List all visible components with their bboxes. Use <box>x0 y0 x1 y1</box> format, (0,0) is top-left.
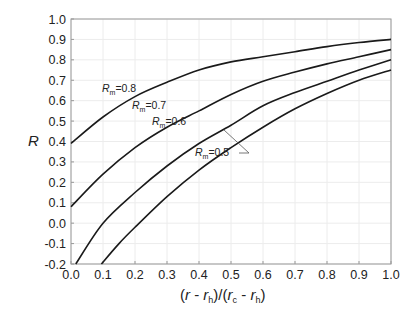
y-tick-label: 0.7 <box>49 74 66 88</box>
y-tick-label: 0.0 <box>49 217 66 231</box>
y-tick-label: 0.5 <box>49 115 66 129</box>
x-tick-label: 0.6 <box>254 268 271 282</box>
label-rm-0.5: Rm=0.5 <box>195 146 229 160</box>
x-tick-label: 0.5 <box>222 268 239 282</box>
label-rm-0.8: Rm=0.8 <box>102 82 136 96</box>
y-tick-label: 0.4 <box>49 135 66 149</box>
label-rm-0.6: Rm=0.6 <box>152 115 186 129</box>
y-axis-ticks: -0.2-0.10.00.10.20.30.40.50.60.70.80.91.… <box>44 13 74 272</box>
line-chart: -0.2-0.10.00.10.20.30.40.50.60.70.80.91.… <box>0 0 418 313</box>
x-tick-label: 0.0 <box>62 268 79 282</box>
label-rm-0.7: Rm=0.7 <box>132 99 166 113</box>
x-tick-label: 0.7 <box>286 268 303 282</box>
y-tick-label: -0.1 <box>44 237 66 251</box>
y-tick-label: 0.6 <box>49 94 66 108</box>
y-tick-label: 0.1 <box>49 196 66 210</box>
y-tick-label: 0.9 <box>49 33 66 47</box>
y-tick-label: 0.3 <box>49 155 66 169</box>
y-tick-label: 0.8 <box>49 53 66 67</box>
x-tick-label: 0.8 <box>318 268 335 282</box>
x-tick-label: 0.9 <box>350 268 367 282</box>
x-tick-label: 0.4 <box>190 268 207 282</box>
y-tick-label: 1.0 <box>49 13 66 27</box>
y-axis-title: R <box>28 132 39 149</box>
x-tick-label: 0.3 <box>158 268 175 282</box>
x-tick-label: 1.0 <box>382 268 399 282</box>
y-tick-label: 0.2 <box>49 176 66 190</box>
grid <box>71 19 391 264</box>
x-tick-label: 0.2 <box>126 268 143 282</box>
x-axis-title: (r - rh)/(rc - rh) <box>180 286 265 305</box>
x-tick-label: 0.1 <box>94 268 111 282</box>
